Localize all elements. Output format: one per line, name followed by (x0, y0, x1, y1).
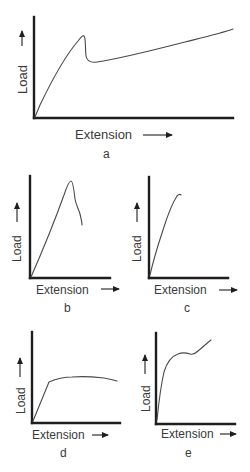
panel-letter: c (184, 301, 190, 315)
y-axis-label: Load (15, 65, 30, 94)
y-axis-label-group: Load (130, 203, 144, 262)
y-axis-label-group: Load (10, 203, 24, 262)
panel-a: Load Extension a (15, 17, 234, 161)
tensile-curves-figure: Load Extension a Load Extension b Load (0, 0, 250, 472)
load-extension-curve (150, 194, 181, 275)
x-axis-label-group: Extension (36, 283, 119, 297)
x-axis-label: Extension (161, 427, 214, 441)
y-axis-label-group: Load (139, 355, 153, 412)
y-axis-label: Load (130, 235, 144, 262)
panel-letter: b (64, 301, 71, 315)
y-axis-label-group: Load (14, 358, 28, 414)
x-axis-label-group: Extension (75, 127, 172, 142)
y-axis-label-group: Load (15, 31, 30, 94)
x-axis-label-group: Extension (154, 283, 237, 297)
x-axis-label: Extension (32, 428, 85, 442)
panel-e: Load Extension e (139, 333, 237, 460)
load-extension-curve (33, 377, 117, 421)
panel-letter: e (185, 446, 192, 460)
panel-b: Load Extension b (10, 176, 119, 315)
load-extension-curve (31, 181, 82, 277)
panel-c: Load Extension c (130, 177, 237, 315)
y-axis-label: Load (10, 235, 24, 262)
x-axis-label: Extension (36, 283, 89, 297)
load-extension-curve (35, 29, 233, 117)
panel-letter: a (103, 147, 110, 161)
panel-letter: d (60, 446, 67, 460)
x-axis-label-group: Extension (161, 427, 236, 441)
load-extension-curve (157, 340, 211, 420)
x-axis-label: Extension (75, 127, 132, 142)
x-axis-label-group: Extension (32, 428, 108, 442)
x-axis-label: Extension (154, 283, 207, 297)
panel-d: Load Extension d (14, 332, 121, 460)
y-axis-label: Load (14, 387, 28, 414)
y-axis-label: Load (139, 385, 153, 412)
